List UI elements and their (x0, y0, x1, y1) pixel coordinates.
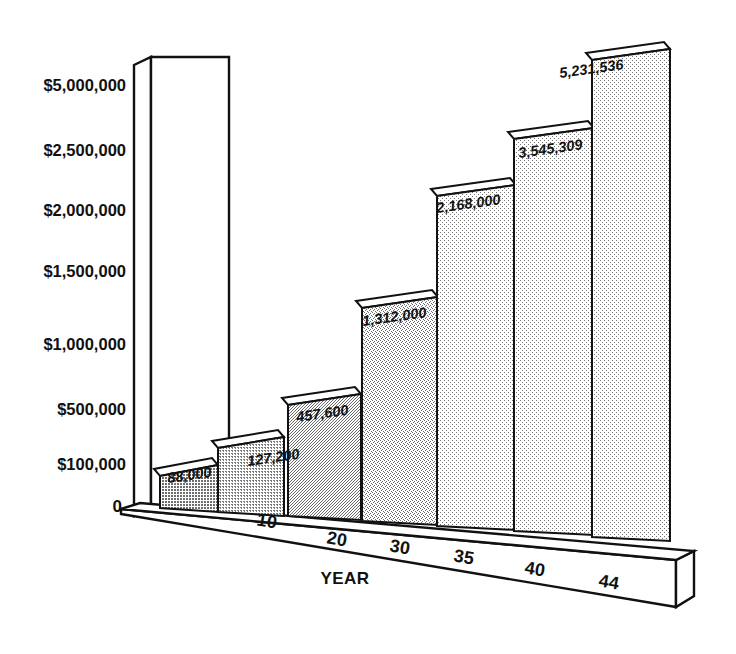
y-axis-tick-label: $2,500,000 (43, 141, 126, 159)
bar-front-face (437, 185, 516, 530)
x-axis-title: YEAR (320, 569, 369, 588)
y-axis-tick-label: $1,500,000 (43, 262, 126, 280)
bar-front-face (362, 297, 438, 525)
x-axis-tick-label: 40 (523, 558, 546, 581)
bar-2[interactable] (212, 430, 284, 516)
y-axis-wall (134, 57, 229, 516)
y-axis-tick-label: $2,000,000 (43, 201, 126, 219)
bar-7[interactable] (586, 42, 670, 541)
x-axis-tick-label: 30 (388, 536, 411, 559)
x-axis-tick-label: 20 (325, 528, 348, 551)
x-axis-tick-label: 35 (452, 546, 475, 569)
y-axis-zero-label: 0 (113, 497, 122, 516)
bar-front-face (514, 128, 594, 535)
x-axis-tick-label: 10 (255, 510, 278, 533)
y-axis-wall-side-face (134, 57, 151, 516)
y-axis-tick-label: $100,000 (57, 455, 126, 473)
y-axis-tick-label: $5,000,000 (43, 76, 126, 94)
bar-6[interactable] (508, 121, 594, 535)
chart-container: 88,000127,200457,6001,312,0002,168,0003,… (0, 0, 736, 654)
y-axis-tick-label: $1,000,000 (43, 335, 126, 353)
bar-chart-svg: 88,000127,200457,6001,312,0002,168,0003,… (0, 0, 736, 654)
bar-front-face (592, 49, 670, 541)
y-axis-tick-label: $500,000 (57, 400, 126, 418)
bars-group (154, 42, 670, 541)
y-axis-tick-labels: $5,000,000$2,500,000$2,000,000$1,500,000… (43, 76, 126, 516)
x-axis-tick-label: 44 (597, 571, 620, 594)
bar-5[interactable] (431, 178, 516, 530)
